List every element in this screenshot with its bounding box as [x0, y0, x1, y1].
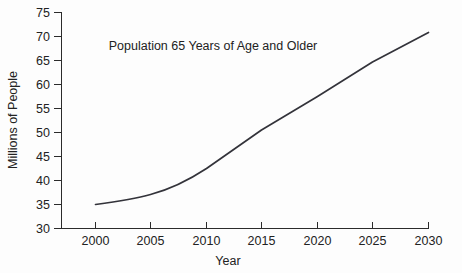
y-tick-label: 75 — [36, 6, 50, 20]
y-tick-label: 60 — [36, 78, 50, 92]
y-tick-label: 35 — [36, 198, 50, 212]
x-tick-label: 2030 — [415, 234, 443, 248]
x-axis-title: Year — [215, 254, 240, 268]
y-tick-label: 45 — [36, 150, 50, 164]
y-tick-label: 40 — [36, 174, 50, 188]
x-tick-label: 2015 — [248, 234, 276, 248]
chart-figure: 75 70 65 60 55 50 45 40 35 30 2000 2005 … — [0, 0, 462, 273]
x-tick-label: 2000 — [82, 234, 110, 248]
y-tick-label: 30 — [36, 222, 50, 236]
x-tick-label: 2020 — [304, 234, 332, 248]
line-chart: 75 70 65 60 55 50 45 40 35 30 2000 2005 … — [0, 0, 462, 273]
y-axis-title: Millions of People — [6, 71, 20, 169]
y-tick-label: 65 — [36, 54, 50, 68]
x-tick-label: 2005 — [137, 234, 165, 248]
x-tick-label: 2010 — [193, 234, 221, 248]
y-tick-label: 55 — [36, 102, 50, 116]
x-tick-label: 2025 — [359, 234, 387, 248]
y-tick-label: 50 — [36, 126, 50, 140]
chart-title: Population 65 Years of Age and Older — [109, 39, 318, 53]
y-tick-label: 70 — [36, 30, 50, 44]
